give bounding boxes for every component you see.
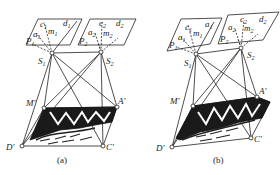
d1-label-b: a1 [205, 19, 213, 30]
d1-label-a: d1 [63, 18, 71, 29]
base-line-a [52, 52, 101, 53]
s1-label-a: S1 [38, 56, 46, 67]
d-node-b [170, 145, 174, 149]
s1-node-a [50, 51, 54, 55]
a1-label-a: a1 [33, 29, 41, 40]
c-node-b [249, 136, 253, 140]
a2-label-a: a2 [88, 27, 96, 38]
stereo-photogrammetry-figure: c1 d1 a1 m1 P1 c2 d2 a2 m2 P2 S1 S2 M' A… [0, 0, 280, 175]
m-prime-label-b: M' [169, 96, 180, 106]
s1-label-b: S1 [184, 58, 192, 69]
s1-node-b [194, 52, 198, 56]
panel-b [167, 12, 279, 147]
c-prime-label-b: C' [254, 134, 263, 144]
a-prime-label-a: A' [117, 96, 126, 106]
p2-label-a: P2 [78, 36, 88, 47]
p1-label-b: P1 [168, 40, 178, 51]
caption-a: (a) [57, 155, 67, 165]
d2-label-a: d2 [116, 18, 124, 29]
m-node-b [191, 104, 195, 108]
m1-label-a: m1 [48, 26, 58, 37]
caption-b: (b) [213, 155, 224, 165]
s2-label-b: S2 [247, 50, 255, 61]
c1-label-a: c1 [40, 19, 47, 30]
c-prime-label-a: C' [106, 142, 115, 152]
d-prime-label-a: D' [5, 142, 15, 152]
s2-label-a: S2 [106, 56, 114, 67]
a2-label-b: a2 [228, 22, 236, 33]
c1-label-b: c1 [185, 22, 192, 33]
d2-label-b: d2 [259, 14, 267, 25]
s2-node-a [99, 50, 103, 54]
m-node-a [42, 106, 46, 110]
c-node-a [101, 144, 105, 148]
m-prime-label-a: M' [25, 98, 36, 108]
d-node-a [20, 144, 24, 148]
m2-label-b: m2 [244, 23, 254, 34]
base-line-b [196, 48, 241, 54]
d-prime-label-b: D' [155, 143, 165, 153]
m2-label-a: m2 [103, 28, 113, 39]
s2-node-b [239, 46, 243, 50]
a-prime-label-b: A' [258, 86, 267, 96]
m1-label-b: m1 [193, 28, 203, 39]
a1-label-b: a1 [178, 32, 186, 43]
p2-label-b: P2 [219, 34, 229, 45]
